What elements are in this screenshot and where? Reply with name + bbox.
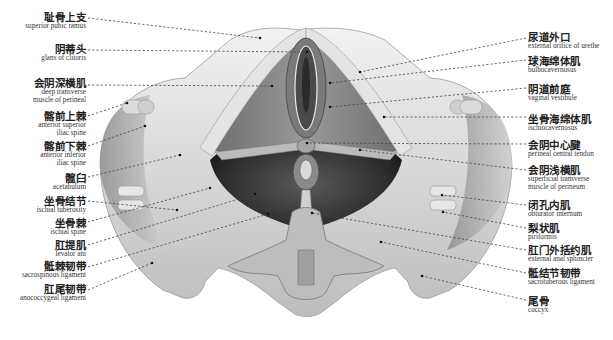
pelvic-floor-illustration: [0, 0, 613, 340]
label-english: sacrotuberous ligament: [528, 279, 595, 287]
anatomy-label: 肛门外括约肌external anal sphincter: [528, 245, 593, 264]
label-english: glans of clitoris: [41, 55, 86, 63]
label-english: ischial spine: [50, 229, 86, 237]
anatomy-label: 会阴中心腱perineal central tendon: [528, 140, 594, 159]
anatomy-label: 坐骨棘ischial spine: [50, 218, 86, 237]
label-english: acetabulum: [53, 184, 86, 192]
label-english: superior pubic ramus: [25, 23, 86, 31]
label-english: anococcygeal ligament: [20, 295, 86, 303]
anatomy-label: 球海绵体肌bulbocavernosus: [528, 56, 581, 75]
anatomy-label: 耻骨上支superior pubic ramus: [25, 12, 86, 31]
anatomy-label: 尿道外口external orifice of urethe: [528, 32, 599, 51]
anatomy-label: 髂前下棘anterior inferioriliac spine: [40, 141, 86, 167]
label-english: iliac spine: [40, 160, 86, 168]
anatomy-label: 肛提肌levator ani: [55, 240, 87, 259]
label-english: iliac spine: [38, 130, 86, 138]
label-english: muscle of perineal: [33, 97, 86, 105]
anatomy-label: 会阴浅横肌superficial transversemuscle of per…: [528, 165, 589, 191]
label-english: ischiocavernosus: [528, 125, 591, 133]
label-english: ischial tuberosity: [37, 207, 86, 215]
anatomy-label: 阴蒂头glans of clitoris: [41, 44, 86, 63]
anatomy-label: 闭孔内肌obturator internum: [528, 200, 582, 219]
anatomy-label: 尾骨coccyx: [528, 296, 549, 315]
label-english: external anal sphincter: [528, 256, 593, 264]
anatomy-label: 肛尾韧带anococcygeal ligament: [20, 284, 86, 303]
label-english: obturator internum: [528, 211, 582, 219]
anatomy-label: 髂前上棘anterior superioriliac spine: [38, 111, 86, 137]
anatomy-label: 髋臼acetabulum: [53, 173, 86, 192]
label-english: piriformis: [528, 234, 560, 242]
perineal-central-tendon: [297, 139, 315, 153]
anatomy-label: 坐骨海绵体肌ischiocavernosus: [528, 114, 591, 133]
anatomy-label: 骶结节韧带sacrotuberous ligament: [528, 268, 595, 287]
anatomy-label: 骶棘韧带sacrospinous ligament: [22, 261, 86, 280]
label-english: levator ani: [55, 251, 87, 259]
anatomy-label: 会阴深横肌deep transversemuscle of perineal: [33, 78, 86, 104]
label-english: muscle of perineum: [528, 184, 589, 192]
label-english: sacrospinous ligament: [22, 272, 86, 280]
label-english: vaginal vestibule: [528, 95, 577, 103]
anatomy-label: 梨状肌piriformis: [528, 223, 560, 242]
label-english: external orifice of urethe: [528, 43, 599, 51]
anatomy-label: 坐骨结节ischial tuberosity: [37, 196, 86, 215]
label-english: perineal central tendon: [528, 151, 594, 159]
label-english: coccyx: [528, 307, 549, 315]
label-english: bulbocavernosus: [528, 67, 581, 75]
anatomy-label: 阴道前庭vaginal vestibule: [528, 84, 577, 103]
